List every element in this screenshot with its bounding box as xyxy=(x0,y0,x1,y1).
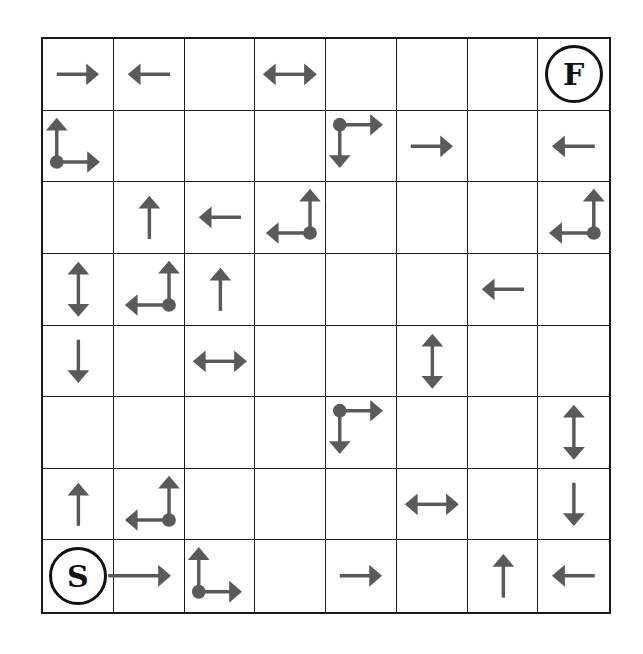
cell-r7-c6 xyxy=(468,540,539,612)
cell-r6-c6 xyxy=(468,469,539,541)
cell-r2-c3 xyxy=(255,182,326,254)
cell-r7-c5 xyxy=(397,540,468,612)
cell-r4-c4 xyxy=(326,326,397,398)
cell-r6-c2 xyxy=(185,469,256,541)
cell-r0-c1 xyxy=(114,39,185,111)
cell-r0-c0 xyxy=(43,39,114,111)
cell-r0-c6 xyxy=(468,39,539,111)
cell-r1-c1 xyxy=(114,111,185,183)
cell-r5-c1 xyxy=(114,397,185,469)
cell-r5-c6 xyxy=(468,397,539,469)
cell-r0-c4 xyxy=(326,39,397,111)
cell-r6-c0 xyxy=(43,469,114,541)
cell-r4-c1 xyxy=(114,326,185,398)
cell-r5-c3 xyxy=(255,397,326,469)
cell-r2-c5 xyxy=(397,182,468,254)
cell-r4-c3 xyxy=(255,326,326,398)
cell-r3-c2 xyxy=(185,254,256,326)
cell-r3-c1 xyxy=(114,254,185,326)
cell-r5-c0 xyxy=(43,397,114,469)
cell-r7-c7 xyxy=(538,540,609,612)
cell-r3-c7 xyxy=(538,254,609,326)
cell-r4-c2 xyxy=(185,326,256,398)
maze-grid: FS xyxy=(41,37,611,614)
cell-r5-c4 xyxy=(326,397,397,469)
cell-r5-c5 xyxy=(397,397,468,469)
cell-r2-c6 xyxy=(468,182,539,254)
cell-r7-c2 xyxy=(185,540,256,612)
cell-r1-c3 xyxy=(255,111,326,183)
cell-r2-c2 xyxy=(185,182,256,254)
cell-r6-c3 xyxy=(255,469,326,541)
cell-r7-c1 xyxy=(114,540,185,612)
cell-r7-c4 xyxy=(326,540,397,612)
cell-r1-c4 xyxy=(326,111,397,183)
cell-r4-c0 xyxy=(43,326,114,398)
cell-r0-c2 xyxy=(185,39,256,111)
cell-r4-c7 xyxy=(538,326,609,398)
cell-r7-c0: S xyxy=(43,540,114,612)
cell-r3-c6 xyxy=(468,254,539,326)
cell-r1-c6 xyxy=(468,111,539,183)
cell-r1-c2 xyxy=(185,111,256,183)
start-marker: S xyxy=(49,547,107,605)
cell-r3-c3 xyxy=(255,254,326,326)
cell-r1-c7 xyxy=(538,111,609,183)
cell-r3-c0 xyxy=(43,254,114,326)
cell-r2-c4 xyxy=(326,182,397,254)
cell-r2-c0 xyxy=(43,182,114,254)
cell-r3-c5 xyxy=(397,254,468,326)
cell-r3-c4 xyxy=(326,254,397,326)
cell-r1-c0 xyxy=(43,111,114,183)
cell-r0-c3 xyxy=(255,39,326,111)
cell-r6-c5 xyxy=(397,469,468,541)
cell-r4-c5 xyxy=(397,326,468,398)
cell-r5-c7 xyxy=(538,397,609,469)
cell-r2-c1 xyxy=(114,182,185,254)
cell-r4-c6 xyxy=(468,326,539,398)
cell-r6-c7 xyxy=(538,469,609,541)
cell-r0-c5 xyxy=(397,39,468,111)
cell-r6-c4 xyxy=(326,469,397,541)
cell-r2-c7 xyxy=(538,182,609,254)
cell-r1-c5 xyxy=(397,111,468,183)
cell-r0-c7: F xyxy=(538,39,609,111)
cell-r5-c2 xyxy=(185,397,256,469)
finish-marker: F xyxy=(545,45,603,103)
cell-r7-c3 xyxy=(255,540,326,612)
cell-r6-c1 xyxy=(114,469,185,541)
